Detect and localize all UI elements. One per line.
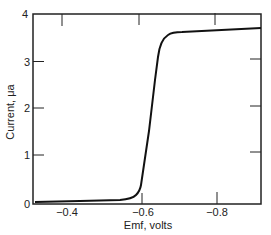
x-tick-neg0.8: −0.8 [206, 206, 228, 218]
y-tick-0: 0 [24, 198, 30, 210]
x-tick-neg0.6: −0.6 [132, 206, 154, 218]
polarogram-chart: 4 3 2 1 0 −0.4 −0.6 −0.8 Emf, volts Curr… [0, 0, 271, 235]
y-tick-3: 3 [24, 56, 30, 68]
y-tick-1: 1 [24, 149, 30, 161]
data-curve [35, 28, 261, 202]
y-axis-label: Current, μa [4, 83, 16, 139]
y-ticks [33, 13, 261, 204]
x-tick-neg0.4: −0.4 [56, 206, 78, 218]
y-tick-2: 2 [24, 102, 30, 114]
plot-frame [33, 14, 261, 204]
x-axis-label: Emf, volts [124, 219, 173, 231]
y-tick-4: 4 [22, 8, 28, 20]
